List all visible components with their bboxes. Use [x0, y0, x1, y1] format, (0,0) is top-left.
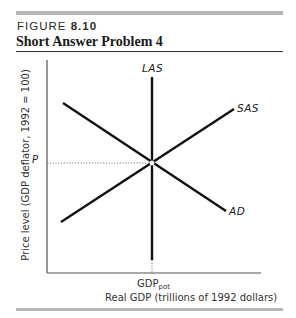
price-level-tick: P [32, 154, 38, 165]
las-label: LAS [142, 62, 163, 74]
equilibrium-point [150, 161, 154, 165]
ad-label: AD [229, 205, 245, 217]
sas-label: SAS [237, 102, 259, 114]
bottom-rule [16, 308, 283, 311]
potential-gdp-tick: GDPpot [137, 278, 170, 289]
y-axis-label: Price level (GDP deflator, 1992 = 100) [20, 69, 31, 261]
as-ad-diagram [0, 0, 296, 318]
ad-curve [63, 103, 226, 211]
sas-curve [61, 109, 234, 222]
potential-gdp-tick-sub: pot [158, 283, 169, 291]
x-axis-label: Real GDP (trillions of 1992 dollars) [105, 292, 277, 303]
potential-gdp-tick-main: GDP [137, 278, 158, 289]
